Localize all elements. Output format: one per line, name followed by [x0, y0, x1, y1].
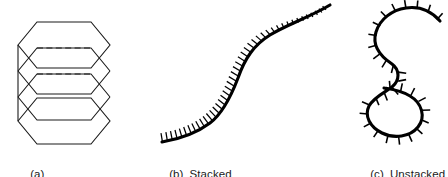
- caption-c-name: Unstacked: [390, 168, 445, 177]
- caption-panel-a: (a): [17, 156, 45, 177]
- caption-panel-b: (b)Stacked: [156, 156, 232, 177]
- caption-b-tag: (b): [169, 168, 183, 177]
- stacked-curve-backbone: [162, 5, 330, 142]
- unstacked-curve-backbone: [367, 8, 440, 137]
- stacked-curve-ticks: [161, 6, 326, 142]
- caption-c-tag: (c): [370, 168, 384, 177]
- caption-b-name: Stacked: [190, 168, 232, 177]
- hexagon-disc-3-front: [18, 97, 110, 120]
- hexagon-disc-1: [18, 22, 110, 68]
- hexagon-disc-4: [18, 98, 110, 144]
- caption-a-tag: (a): [30, 168, 44, 177]
- panel-b-stacked-curve: [150, 0, 330, 152]
- figure-root: (a) (b)Stacked (c)Unstacked: [0, 0, 448, 177]
- panel-c-unstacked-curve: [330, 0, 448, 152]
- panel-a-hexagon-stack: [0, 0, 150, 152]
- caption-panel-c: (c)Unstacked: [357, 156, 445, 177]
